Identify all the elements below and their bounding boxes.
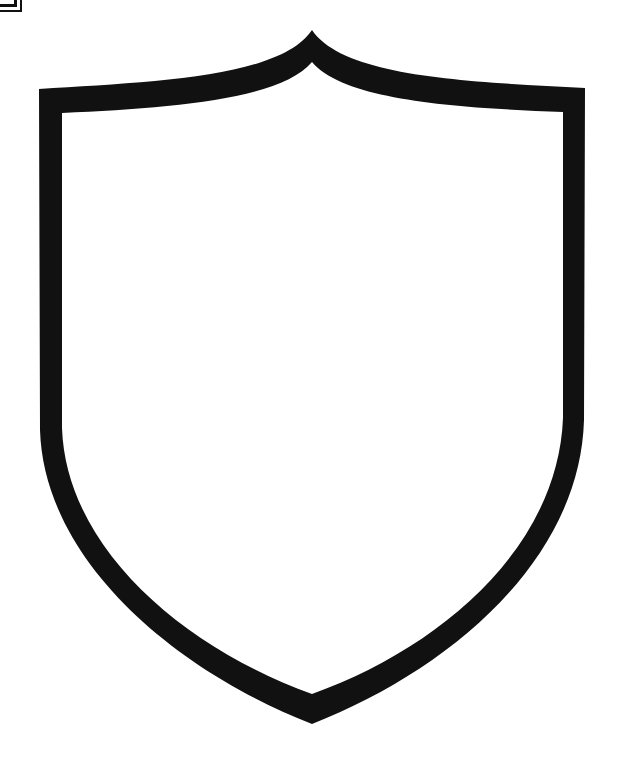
shield-icon — [0, 0, 622, 759]
shield-outline — [39, 30, 585, 724]
